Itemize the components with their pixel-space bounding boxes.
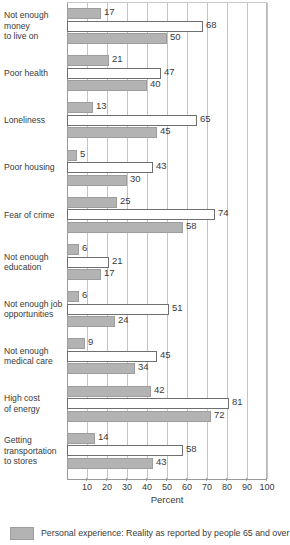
category-label-line: Poor housing (4, 162, 66, 173)
bar (67, 433, 95, 444)
category-label: Not enoughmoneyto live on (4, 10, 66, 42)
bar-value-label: 25 (117, 195, 131, 206)
bar (67, 445, 183, 456)
bar-row: 5 (67, 150, 267, 161)
category-label: Gettingtransportationto stores (4, 435, 66, 467)
category-label-line: Getting (4, 435, 66, 446)
bar-value-label: 58 (183, 220, 197, 231)
bar-row: 51 (67, 304, 267, 315)
bar (67, 386, 151, 397)
x-tick-label-50: 50 (162, 481, 172, 493)
bar-row: 47 (67, 68, 267, 79)
x-tick-label-90: 90 (242, 481, 252, 493)
bar-value-label: 21 (109, 255, 123, 266)
bar-value-label: 6 (79, 242, 87, 253)
bar (67, 257, 109, 268)
bar-value-label: 81 (229, 396, 243, 407)
bar (67, 316, 115, 327)
category-label: High costof energy (4, 393, 66, 414)
bar-value-label: 14 (95, 431, 109, 442)
x-tick-label-70: 70 (202, 481, 212, 493)
category-label: Not enough jobopportunities (4, 299, 66, 320)
x-tick-label-60: 60 (182, 481, 192, 493)
bar-value-label: 24 (115, 314, 129, 325)
category-label-line: Not enough (4, 10, 66, 21)
bar-row: 42 (67, 386, 267, 397)
x-tick-label-80: 80 (222, 481, 232, 493)
bar-row: 24 (67, 316, 267, 327)
bar-value-label: 30 (127, 173, 141, 184)
category-label-line: money (4, 21, 66, 32)
category-label-line: Loneliness (4, 115, 66, 126)
bar-row: 74 (67, 209, 267, 220)
category-label-line: Fear of crime (4, 210, 66, 221)
bar (67, 291, 79, 302)
bar-value-label: 13 (93, 100, 107, 111)
bar-row: 40 (67, 80, 267, 91)
bar (67, 269, 101, 280)
bar (67, 150, 77, 161)
category-label: Not enoughmedical care (4, 346, 66, 367)
bar (67, 351, 157, 362)
category-label-line: High cost (4, 393, 66, 404)
x-tick-label-30: 30 (122, 481, 132, 493)
bar-row: 72 (67, 411, 267, 422)
bar-value-label: 51 (169, 302, 183, 313)
bar-row: 9 (67, 338, 267, 349)
category-label: Not enougheducation (4, 252, 66, 273)
legend-item: Personal experience: Reality as reported… (10, 527, 289, 540)
category-label-line: of energy (4, 404, 66, 415)
category-label-line: Not enough (4, 346, 66, 357)
bar-value-label: 34 (135, 361, 149, 372)
bar (67, 398, 229, 409)
bar (67, 244, 79, 255)
bar (67, 197, 117, 208)
bar (67, 55, 109, 66)
category-label: Loneliness (4, 115, 66, 126)
bar-row: 25 (67, 197, 267, 208)
category-label-line: transportation (4, 446, 66, 457)
bar (67, 209, 215, 220)
bar-value-label: 65 (197, 113, 211, 124)
legend-swatch (10, 527, 34, 540)
bar-value-label: 42 (151, 384, 165, 395)
bar (67, 338, 85, 349)
bar-value-label: 17 (101, 267, 115, 278)
bar (67, 363, 135, 374)
category-label-line: Not enough job (4, 299, 66, 310)
x-axis-title: Percent (67, 494, 267, 505)
bar (67, 127, 157, 138)
bar-row: 58 (67, 445, 267, 456)
bar (67, 102, 93, 113)
bar-row: 65 (67, 115, 267, 126)
x-axis-ticks: 102030405060708090100 (67, 481, 267, 493)
bar-value-label: 68 (203, 19, 217, 30)
bar-row: 34 (67, 363, 267, 374)
x-tick-label-10: 10 (82, 481, 92, 493)
bar (67, 411, 211, 422)
bar-row: 21 (67, 55, 267, 66)
bar-row: 6 (67, 244, 267, 255)
category-label: Poor health (4, 68, 66, 79)
bar (67, 304, 169, 315)
x-tick-label-40: 40 (142, 481, 152, 493)
bar-row: 45 (67, 351, 267, 362)
bar (67, 21, 203, 32)
category-label-line: Poor health (4, 68, 66, 79)
bar-value-label: 50 (167, 31, 181, 42)
bar-row: 50 (67, 33, 267, 44)
chart-legend: Personal experience: Reality as reported… (10, 527, 285, 543)
bar-value-label: 21 (109, 53, 123, 64)
bar-value-label: 6 (79, 289, 87, 300)
bar-value-label: 47 (161, 66, 175, 77)
bar-row: 30 (67, 175, 267, 186)
bar (67, 8, 101, 19)
bar-value-label: 58 (183, 443, 197, 454)
category-label: Poor housing (4, 162, 66, 173)
bar (67, 68, 161, 79)
bar-row: 6 (67, 291, 267, 302)
x-tick-label-100: 100 (259, 481, 274, 493)
gridline-100 (267, 3, 268, 479)
bar-row: 45 (67, 127, 267, 138)
bar-row: 43 (67, 458, 267, 469)
